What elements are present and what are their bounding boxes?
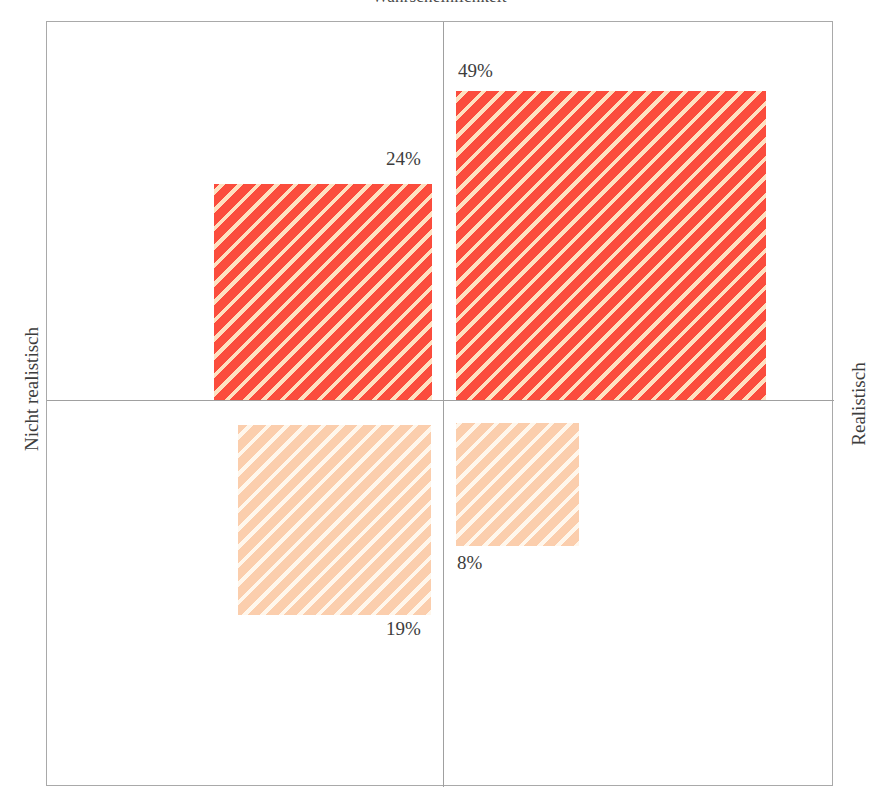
axis-caption-left: Nicht realistisch [21, 289, 43, 489]
vertical-axis-divider [443, 22, 444, 787]
quadrant-square-bottom-right[interactable] [456, 423, 579, 546]
value-label-bottom-left: 19% [386, 618, 421, 640]
axis-caption-right: Realistisch [848, 304, 870, 504]
horizontal-axis-divider [47, 400, 834, 401]
plot-frame [46, 21, 833, 786]
value-label-top-right: 49% [458, 60, 493, 82]
value-label-top-left: 24% [386, 148, 421, 170]
quadrant-square-top-left[interactable] [214, 184, 432, 400]
value-label-bottom-right: 8% [457, 552, 482, 574]
quadrant-square-top-right[interactable] [456, 91, 766, 400]
quadrant-square-bottom-left[interactable] [238, 425, 431, 615]
chart-title: Wahrscheinlichkeit [0, 0, 879, 7]
